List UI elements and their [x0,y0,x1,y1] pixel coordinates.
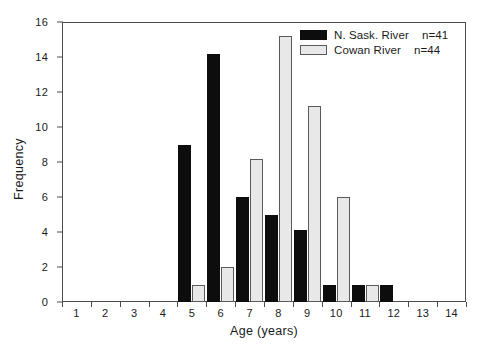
y-tick-label: 4 [42,226,48,238]
x-tick-label: 6 [218,307,224,319]
legend-count: n=41 [422,29,448,41]
x-tick-mark [408,302,409,307]
y-tick-label: 6 [42,191,48,203]
x-tick-mark [177,302,178,307]
x-tick-label: 12 [388,307,401,319]
x-tick-mark [120,302,121,307]
legend-count: n=44 [414,44,440,56]
legend-label: N. Sask. River [334,29,409,41]
y-tick-label: 10 [35,121,48,133]
x-tick-label: 5 [189,307,195,319]
y-tick-mark [57,127,63,128]
x-tick-mark [62,302,63,307]
x-tick-mark [149,302,150,307]
plot-area [62,22,466,302]
y-tick-mark [57,92,63,93]
x-tick-label: 2 [102,307,108,319]
x-tick-label: 11 [359,307,371,319]
x-tick-label: 10 [330,307,343,319]
x-tick-mark [322,302,323,307]
y-tick-label: 0 [42,296,48,308]
x-axis-title: Age (years) [62,324,466,338]
x-tick-label: 3 [131,307,137,319]
legend-swatch-icon [300,30,327,40]
y-tick-label: 2 [42,261,48,273]
x-tick-label: 14 [445,307,458,319]
frequency-age-histogram: 0246810121416 Frequency Age (years) N. S… [0,0,492,345]
y-axis-title: Frequency [12,99,26,239]
y-tick-label: 14 [35,51,48,63]
legend-item: N. Sask. Rivern=41 [300,28,448,41]
x-tick-label: 4 [160,307,166,319]
x-tick-mark [379,302,380,307]
y-tick-mark [57,197,63,198]
x-tick-mark [466,302,467,307]
x-tick-mark [206,302,207,307]
y-tick-label: 12 [35,86,48,98]
x-tick-mark [235,302,236,307]
y-tick-mark [57,162,63,163]
y-axis: 0246810121416 [0,0,58,345]
x-tick-label: 13 [416,307,429,319]
y-tick-label: 8 [42,156,48,168]
legend-swatch-icon [300,45,327,55]
x-tick-mark [293,302,294,307]
x-tick-label: 9 [304,307,310,319]
y-tick-mark [57,22,63,23]
x-tick-label: 7 [246,307,252,319]
legend-item: Cowan Rivern=44 [300,43,448,56]
legend-label: Cowan River [334,44,401,56]
y-tick-label: 16 [35,16,48,28]
y-tick-mark [57,232,63,233]
x-tick-mark [351,302,352,307]
y-tick-mark [57,267,63,268]
chart-legend: N. Sask. Rivern=41Cowan Rivern=44 [300,28,448,56]
x-tick-label: 1 [73,307,79,319]
x-tick-mark [91,302,92,307]
x-tick-mark [264,302,265,307]
y-tick-mark [57,57,63,58]
x-tick-label: 8 [275,307,281,319]
x-tick-mark [437,302,438,307]
